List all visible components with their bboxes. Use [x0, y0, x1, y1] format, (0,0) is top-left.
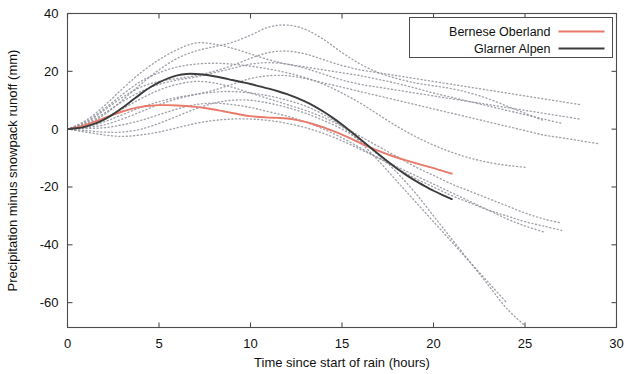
mean-curve-glarner-alpen: [68, 74, 452, 199]
legend: Bernese OberlandGlarner Alpen: [410, 18, 613, 58]
x-tick-label: 15: [335, 336, 349, 351]
ensemble-curve: [68, 81, 562, 223]
x-tick-label: 10: [243, 336, 257, 351]
chart-figure: 05101520253040200-20-40-60Time since sta…: [0, 0, 630, 374]
x-tick-label: 20: [426, 336, 440, 351]
y-tick-label: 0: [51, 122, 58, 137]
mean-curve-bernese-oberland: [68, 105, 452, 174]
plot-frame: [68, 14, 617, 328]
y-tick-label: -20: [40, 179, 59, 194]
chart-canvas: 05101520253040200-20-40-60Time since sta…: [0, 0, 630, 374]
x-tick-label: 25: [518, 336, 532, 351]
ensemble-curve: [68, 63, 526, 167]
x-tick-label: 0: [64, 336, 71, 351]
x-axis-title: Time since start of rain (hours): [254, 355, 430, 370]
legend-label: Bernese Oberland: [449, 25, 551, 39]
ensemble-curve: [68, 119, 544, 232]
y-tick-label: -40: [40, 237, 59, 252]
legend-label: Glarner Alpen: [474, 42, 550, 56]
y-axis-title: Precipitation minus snowpack runoff (mm): [5, 50, 20, 292]
y-tick-label: 40: [44, 6, 58, 21]
x-axis: 051015202530: [64, 14, 624, 351]
x-tick-label: 5: [155, 336, 162, 351]
y-tick-label: 20: [44, 64, 58, 79]
series-group: [68, 25, 599, 326]
y-tick-label: -60: [40, 295, 59, 310]
x-tick-label: 30: [609, 336, 623, 351]
ensemble-curve: [68, 100, 526, 326]
